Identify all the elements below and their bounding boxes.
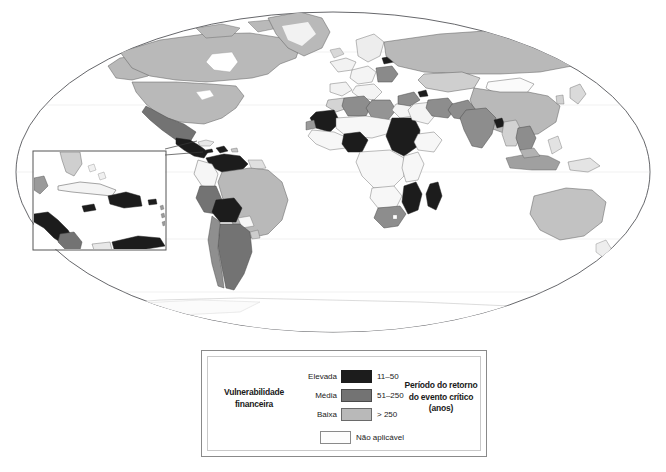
legend-range-media: 51–250 <box>372 391 404 400</box>
region-lesotho <box>393 215 397 219</box>
legend-title-left-line2: financeira <box>235 399 273 409</box>
legend-category-media: Média <box>300 391 341 400</box>
legend-range-nao-aplicavel: Não aplicável <box>351 433 404 442</box>
legend-title-left-line1: Vulnerabilidade <box>224 387 284 397</box>
legend-swatches: Elevada 11–50 Média 51–250 Baixa > 250 <box>300 360 404 447</box>
legend-title-right-line1: Período do retorno <box>405 380 478 390</box>
legend-category-baixa: Baixa <box>300 410 341 419</box>
legend-right-title: Período do retorno do evento crítico (an… <box>404 380 480 426</box>
legend-swatch-nao-aplicavel <box>320 431 351 444</box>
legend-row-baixa: Baixa > 250 <box>300 405 404 424</box>
world-choropleth-figure: Vulnerabilidade financeira Elevada 11–50… <box>0 0 666 472</box>
legend-title-right-line3: (anos) <box>429 403 453 413</box>
legend-range-baixa: > 250 <box>372 410 397 419</box>
legend-left-title: Vulnerabilidade financeira <box>208 387 300 420</box>
legend-range-elevada: 11–50 <box>372 372 399 381</box>
legend-swatch-elevada <box>341 370 372 383</box>
legend-row-nao-aplicavel: Não aplicável <box>300 428 404 447</box>
region-antarctica <box>30 298 640 332</box>
map-legend: Vulnerabilidade financeira Elevada 11–50… <box>201 350 487 457</box>
region-korea <box>556 95 564 104</box>
region-senegal <box>306 120 316 130</box>
legend-swatch-media <box>341 389 372 402</box>
legend-row-media: Média 51–250 <box>300 386 404 405</box>
legend-swatch-baixa <box>341 408 372 421</box>
legend-title-right-line2: do evento crítico <box>409 392 474 402</box>
legend-inner-frame: Vulnerabilidade financeira Elevada 11–50… <box>207 356 481 451</box>
legend-category-elevada: Elevada <box>300 372 341 381</box>
caribbean-inset-content <box>34 152 166 250</box>
inset-region-puerto-rico <box>148 199 157 205</box>
legend-row-elevada: Elevada 11–50 <box>300 367 404 386</box>
